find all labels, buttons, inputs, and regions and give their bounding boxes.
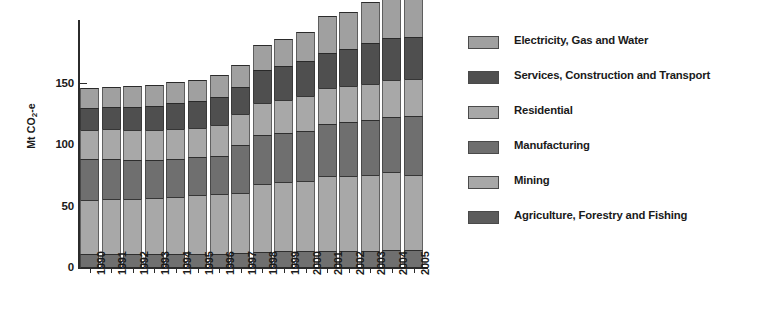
bar-segment-2005-electricity-gas-and-water[interactable] <box>404 0 423 37</box>
bar-1997[interactable] <box>231 65 250 268</box>
bar-segment-1990-mining[interactable] <box>80 200 99 254</box>
bar-segment-2003-manufacturing[interactable] <box>361 120 380 174</box>
bar-segment-2003-mining[interactable] <box>361 175 380 251</box>
bar-1993[interactable] <box>145 85 164 268</box>
bar-segment-2002-electricity-gas-and-water[interactable] <box>339 12 358 49</box>
bar-segment-1999-electricity-gas-and-water[interactable] <box>274 39 293 66</box>
bar-segment-1997-electricity-gas-and-water[interactable] <box>231 65 250 87</box>
legend-item-mining[interactable]: Mining <box>468 173 754 208</box>
bar-segment-1999-services-construction-and-transport[interactable] <box>274 66 293 99</box>
bar-segment-2000-services-construction-and-transport[interactable] <box>296 61 315 95</box>
bar-2005[interactable] <box>404 0 423 268</box>
bar-segment-2000-residential[interactable] <box>296 96 315 132</box>
bar-segment-2002-mining[interactable] <box>339 176 358 251</box>
bar-1995[interactable] <box>188 80 207 268</box>
bar-segment-1998-manufacturing[interactable] <box>253 135 272 184</box>
bar-segment-1999-manufacturing[interactable] <box>274 133 293 182</box>
bar-segment-1993-services-construction-and-transport[interactable] <box>145 106 164 131</box>
bar-segment-1992-services-construction-and-transport[interactable] <box>123 107 142 130</box>
bar-segment-2003-residential[interactable] <box>361 84 380 121</box>
bar-segment-1998-services-construction-and-transport[interactable] <box>253 70 272 103</box>
bar-segment-1991-residential[interactable] <box>102 129 121 159</box>
bar-segment-2005-residential[interactable] <box>404 79 423 116</box>
bar-segment-1996-mining[interactable] <box>210 194 229 254</box>
bar-segment-1996-electricity-gas-and-water[interactable] <box>210 75 229 97</box>
bar-segment-1995-electricity-gas-and-water[interactable] <box>188 80 207 101</box>
bar-segment-2005-services-construction-and-transport[interactable] <box>404 37 423 79</box>
bar-segment-1994-residential[interactable] <box>166 129 185 159</box>
bar-segment-1991-electricity-gas-and-water[interactable] <box>102 87 121 107</box>
bar-segment-1996-residential[interactable] <box>210 125 229 156</box>
bar-segment-1994-manufacturing[interactable] <box>166 159 185 197</box>
bar-segment-1998-electricity-gas-and-water[interactable] <box>253 45 272 70</box>
legend-item-manufacturing[interactable]: Manufacturing <box>468 138 754 173</box>
legend-item-services-construction-and-transport[interactable]: Services, Construction and Transport <box>468 68 754 103</box>
bar-segment-1994-services-construction-and-transport[interactable] <box>166 103 185 129</box>
bar-segment-1991-mining[interactable] <box>102 199 121 254</box>
bar-2001[interactable] <box>318 16 337 268</box>
bar-segment-1992-electricity-gas-and-water[interactable] <box>123 86 142 107</box>
bar-segment-1991-services-construction-and-transport[interactable] <box>102 107 121 129</box>
bar-segment-1999-residential[interactable] <box>274 100 293 133</box>
bar-2000[interactable] <box>296 32 315 268</box>
bar-segment-1998-residential[interactable] <box>253 103 272 135</box>
legend-item-electricity-gas-and-water[interactable]: Electricity, Gas and Water <box>468 33 754 68</box>
bar-segment-1993-residential[interactable] <box>145 130 164 160</box>
bar-segment-1996-manufacturing[interactable] <box>210 156 229 194</box>
bar-1990[interactable] <box>80 88 99 268</box>
bar-segment-2005-manufacturing[interactable] <box>404 116 423 175</box>
bar-segment-2003-services-construction-and-transport[interactable] <box>361 43 380 84</box>
bar-segment-1993-electricity-gas-and-water[interactable] <box>145 85 164 106</box>
bar-segment-1993-mining[interactable] <box>145 198 164 255</box>
bar-segment-2001-manufacturing[interactable] <box>318 124 337 176</box>
bar-1992[interactable] <box>123 86 142 268</box>
bar-segment-2001-residential[interactable] <box>318 88 337 124</box>
bar-1998[interactable] <box>253 45 272 268</box>
bar-segment-1997-residential[interactable] <box>231 114 250 145</box>
bar-segment-1993-manufacturing[interactable] <box>145 160 164 198</box>
bar-segment-1992-manufacturing[interactable] <box>123 160 142 199</box>
bar-segment-2001-mining[interactable] <box>318 176 337 251</box>
bar-segment-2004-mining[interactable] <box>382 172 401 249</box>
bar-segment-1990-services-construction-and-transport[interactable] <box>80 108 99 130</box>
bar-1996[interactable] <box>210 75 229 268</box>
bar-segment-1997-mining[interactable] <box>231 193 250 253</box>
bar-1991[interactable] <box>102 87 121 268</box>
bar-segment-1995-residential[interactable] <box>188 128 207 158</box>
bar-segment-2005-mining[interactable] <box>404 175 423 250</box>
bar-segment-1998-mining[interactable] <box>253 184 272 252</box>
bar-segment-1999-mining[interactable] <box>274 182 293 251</box>
bar-segment-2004-services-construction-and-transport[interactable] <box>382 38 401 80</box>
bar-segment-2003-electricity-gas-and-water[interactable] <box>361 2 380 43</box>
bar-segment-1996-services-construction-and-transport[interactable] <box>210 97 229 125</box>
bar-segment-1992-residential[interactable] <box>123 130 142 160</box>
bar-2003[interactable] <box>361 2 380 268</box>
bar-segment-2004-manufacturing[interactable] <box>382 117 401 172</box>
bar-1994[interactable] <box>166 82 185 268</box>
bar-segment-2001-electricity-gas-and-water[interactable] <box>318 16 337 53</box>
bar-segment-2001-services-construction-and-transport[interactable] <box>318 53 337 89</box>
bar-1999[interactable] <box>274 39 293 268</box>
bar-segment-1995-mining[interactable] <box>188 195 207 254</box>
legend-item-agriculture-forestry-and-fishing[interactable]: Agriculture, Forestry and Fishing <box>468 208 754 243</box>
bar-segment-2000-mining[interactable] <box>296 181 315 251</box>
bar-segment-1997-manufacturing[interactable] <box>231 145 250 193</box>
bar-segment-2004-residential[interactable] <box>382 80 401 117</box>
bar-segment-1995-services-construction-and-transport[interactable] <box>188 101 207 128</box>
bar-segment-2004-electricity-gas-and-water[interactable] <box>382 0 401 38</box>
bar-segment-1991-manufacturing[interactable] <box>102 159 121 200</box>
bar-2002[interactable] <box>339 12 358 268</box>
bar-segment-2000-electricity-gas-and-water[interactable] <box>296 32 315 62</box>
legend-item-residential[interactable]: Residential <box>468 103 754 138</box>
bar-segment-1990-manufacturing[interactable] <box>80 159 99 201</box>
bar-segment-1997-services-construction-and-transport[interactable] <box>231 87 250 114</box>
bar-segment-1994-mining[interactable] <box>166 197 185 255</box>
bar-segment-1994-electricity-gas-and-water[interactable] <box>166 82 185 103</box>
bar-segment-2002-services-construction-and-transport[interactable] <box>339 49 358 86</box>
bar-2004[interactable] <box>382 0 401 268</box>
bar-segment-1995-manufacturing[interactable] <box>188 157 207 195</box>
bar-segment-1990-electricity-gas-and-water[interactable] <box>80 88 99 108</box>
bar-segment-1990-residential[interactable] <box>80 130 99 158</box>
bar-segment-1992-mining[interactable] <box>123 199 142 254</box>
bar-segment-2000-manufacturing[interactable] <box>296 131 315 180</box>
